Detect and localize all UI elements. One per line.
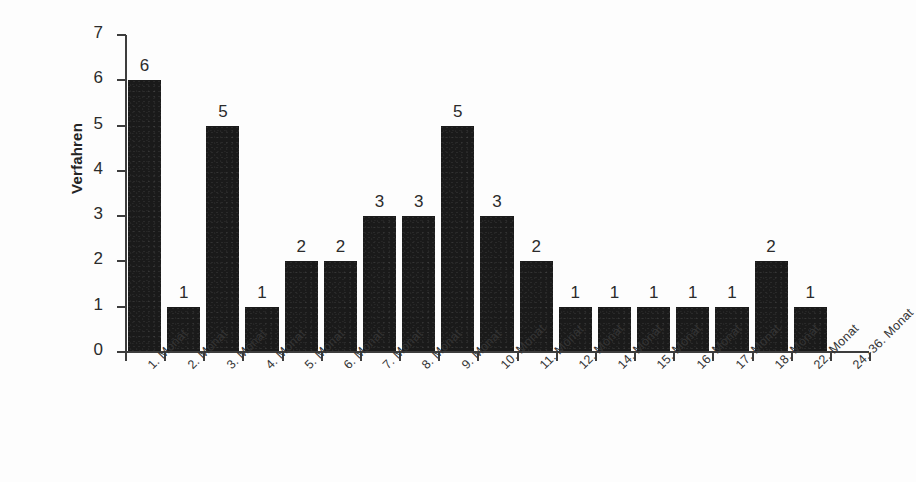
bar-slot: 3: [399, 35, 438, 352]
y-axis-tick-label: 0: [63, 340, 103, 360]
bar-slot: 1: [595, 35, 634, 352]
bar-slot: 2: [517, 35, 556, 352]
bar-value-label: 1: [556, 283, 595, 303]
bar-slot: 3: [360, 35, 399, 352]
bar-slot: 5: [438, 35, 477, 352]
y-axis-tick-label: 1: [63, 295, 103, 315]
x-axis-tick-mark: [125, 353, 127, 361]
bar[interactable]: [441, 126, 474, 352]
bar-slot: 2: [321, 35, 360, 352]
bar-slot: 1: [634, 35, 673, 352]
bar-value-label: 5: [203, 102, 242, 122]
bar-slot: 1: [791, 35, 830, 352]
y-axis-tick-label: 3: [63, 204, 103, 224]
bar-slot: 1: [164, 35, 203, 352]
bar-value-label: 1: [164, 283, 203, 303]
bar-value-label: 2: [282, 237, 321, 257]
bar-value-label: 3: [477, 192, 516, 212]
y-axis-tick-label: 4: [63, 159, 103, 179]
bar-slot: 2: [752, 35, 791, 352]
bar-slot: 3: [477, 35, 516, 352]
bar-slot: 1: [712, 35, 751, 352]
bar-value-label: 2: [517, 237, 556, 257]
bar-value-label: 1: [242, 283, 281, 303]
bar-value-label: 2: [752, 237, 791, 257]
bar-value-label: 2: [321, 237, 360, 257]
bar-slot: 1: [673, 35, 712, 352]
bar-value-label: 1: [712, 283, 751, 303]
bar-value-label: 6: [125, 56, 164, 76]
bar-slot: 5: [203, 35, 242, 352]
bar-value-label: 1: [673, 283, 712, 303]
bar-value-label: 1: [595, 283, 634, 303]
bar-value-label: 3: [399, 192, 438, 212]
bar[interactable]: [128, 80, 161, 352]
plot-area: 615122335321111121: [125, 35, 869, 352]
y-axis-tick-label: 6: [63, 68, 103, 88]
bar-value-label: 1: [791, 283, 830, 303]
bar-slot: 1: [556, 35, 595, 352]
bar-value-label: 1: [634, 283, 673, 303]
bar-slot: 2: [282, 35, 321, 352]
y-axis-tick-label: 2: [63, 249, 103, 269]
bar-slot: 6: [125, 35, 164, 352]
bar-value-label: 3: [360, 192, 399, 212]
bar[interactable]: [206, 126, 239, 352]
bar-slot: 1: [242, 35, 281, 352]
y-axis-tick-label: 7: [63, 23, 103, 43]
y-axis-tick-label: 5: [63, 114, 103, 134]
bar-value-label: 5: [438, 102, 477, 122]
